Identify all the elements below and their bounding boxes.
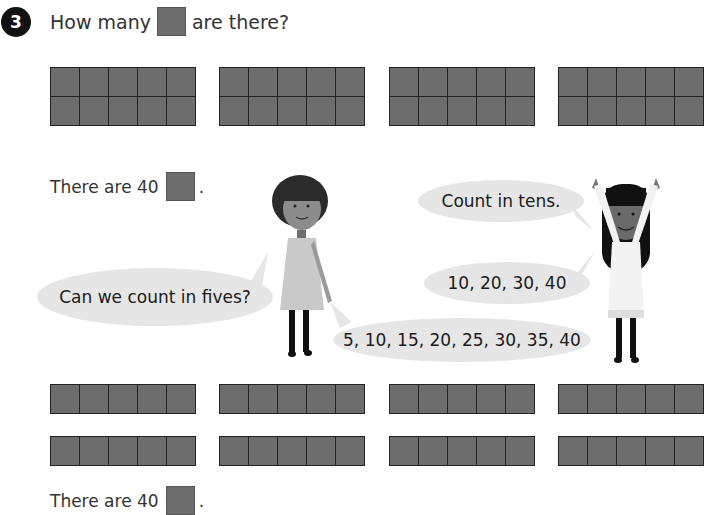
counter-cell [109,68,137,96]
answer-text: There are 40 [50,177,159,197]
counter-cell [419,68,447,96]
counter-cell [559,437,587,465]
counter-cell [336,97,364,125]
counter-cell [588,437,616,465]
counter-cell [506,437,534,465]
counter-cell [477,68,505,96]
answer-period: . [199,491,204,511]
counter-cell [419,385,447,413]
speech-bubble-count-fives: Can we count in fives? [37,268,273,326]
counter-cell [278,437,306,465]
answer-line-top: There are 40 . [50,172,204,201]
answer-period: . [199,177,204,197]
counter-cell [588,68,616,96]
counter-cell [617,68,645,96]
counter-cell [80,437,108,465]
counter-cell [220,97,248,125]
counter-cell [390,97,418,125]
counter-cell [448,385,476,413]
five-frame-7 [389,436,535,466]
counter-cell [249,97,277,125]
counter-cell [675,385,703,413]
speech-bubble-fives-sequence: 5, 10, 15, 20, 25, 30, 35, 40 [333,318,591,362]
counter-cell [220,68,248,96]
counter-cell [80,97,108,125]
counter-cell [477,97,505,125]
counter-cell [448,97,476,125]
ten-frame-1 [50,67,196,126]
five-frame-5 [50,436,196,466]
speech-bubble-count-tens: Count in tens. [418,180,584,222]
counter-cell [138,97,166,125]
counter-cell [51,437,79,465]
counter-cell [167,97,195,125]
counter-cell [646,437,674,465]
counter-cell [559,385,587,413]
five-frame-4 [558,384,704,414]
counter-cell [675,97,703,125]
question-suffix: are there? [192,11,289,33]
counter-cell [138,437,166,465]
counter-cell [278,68,306,96]
counter-cell [336,385,364,413]
counter-cell [477,437,505,465]
counter-cell [220,437,248,465]
counter-cell [646,97,674,125]
five-frame-1 [50,384,196,414]
girl-right-illustration [586,172,666,367]
girl-left-illustration [262,175,342,360]
answer-text: There are 40 [50,491,159,511]
counter-cell [307,385,335,413]
counter-cell [109,385,137,413]
counter-cell [390,437,418,465]
counter-cell [559,97,587,125]
speech-bubble-tens-sequence: 10, 20, 30, 40 [424,262,590,304]
question-number-badge: 3 [1,7,31,37]
counter-cell [80,68,108,96]
counter-cell [336,68,364,96]
five-frame-3 [389,384,535,414]
counter-cell [675,68,703,96]
counter-cell [448,68,476,96]
counter-cell [278,97,306,125]
speech-text: Count in tens. [442,191,561,211]
counter-cell [51,68,79,96]
counter-cell [307,68,335,96]
counter-square-icon [166,172,195,201]
counter-cell [109,437,137,465]
question-prompt: How many are there? [50,7,289,36]
five-frame-6 [219,436,365,466]
ten-frame-3 [389,67,535,126]
counter-cell [307,97,335,125]
counter-cell [477,385,505,413]
counter-cell [167,68,195,96]
counter-cell [419,97,447,125]
counter-cell [278,385,306,413]
counter-cell [138,385,166,413]
ten-frame-2 [219,67,365,126]
counter-square-icon [157,7,186,36]
counter-cell [249,385,277,413]
question-prefix: How many [50,11,151,33]
counter-cell [506,385,534,413]
counter-cell [617,437,645,465]
counter-cell [51,97,79,125]
counter-cell [506,68,534,96]
counter-cell [675,437,703,465]
counter-cell [448,437,476,465]
counter-square-icon [166,486,195,515]
answer-line-bottom: There are 40 . [50,486,204,515]
five-frame-2 [219,384,365,414]
counter-cell [249,437,277,465]
counter-cell [390,385,418,413]
counter-cell [617,385,645,413]
five-frame-8 [558,436,704,466]
counter-cell [109,97,137,125]
speech-text: 10, 20, 30, 40 [448,273,567,293]
counter-cell [220,385,248,413]
counter-cell [588,97,616,125]
counter-cell [588,385,616,413]
counter-cell [506,97,534,125]
speech-text: Can we count in fives? [59,287,251,307]
counter-cell [51,385,79,413]
